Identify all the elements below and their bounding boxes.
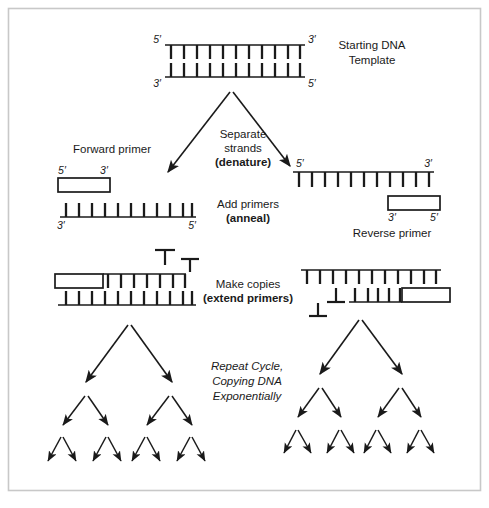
extend-label-line1: Make copies	[216, 278, 281, 290]
anneal-label-line1: Add primers	[217, 198, 279, 210]
template-top-right-end: 3′	[308, 33, 317, 45]
reverse-primer-label: Reverse primer	[353, 227, 432, 239]
denature-label-line1: Separate	[220, 128, 267, 140]
forward-primer-left-end: 5′	[58, 164, 67, 176]
reverse-primer-left-end: 3′	[388, 211, 397, 223]
starting-template-label-line2: Template	[349, 54, 396, 66]
template-bottom-right-end: 5′	[308, 77, 317, 89]
starting-template-label-line1: Starting DNA	[338, 39, 405, 51]
figure-border	[9, 9, 481, 491]
repeat-cycle-line3: Exponentially	[213, 390, 283, 402]
template-top-left-end: 5′	[153, 33, 162, 45]
denatured-left-right-end: 5′	[188, 219, 197, 231]
repeat-cycle-line1: Repeat Cycle,	[211, 360, 283, 372]
pcr-diagram-canvas: 5′ 3′ 3′ 5′ Starting DNA Template Separa…	[0, 0, 489, 508]
reverse-primer-right-end: 5′	[430, 211, 439, 223]
extend-right-primer-box	[402, 288, 450, 302]
repeat-cycle-line2: Copying DNA	[212, 375, 282, 387]
anneal-label-line2: (anneal)	[226, 212, 270, 224]
denatured-left-left-end: 3′	[57, 219, 66, 231]
template-bottom-left-end: 3′	[153, 77, 162, 89]
forward-primer-label: Forward primer	[73, 143, 151, 155]
reverse-primer-box	[388, 196, 440, 210]
denature-label-line2: strands	[224, 142, 262, 154]
forward-primer-right-end: 3′	[100, 164, 109, 176]
pcr-diagram-figure: 5′ 3′ 3′ 5′ Starting DNA Template Separa…	[0, 0, 489, 508]
extend-left-primer-box	[55, 274, 103, 288]
repeat-cycle-label: Repeat Cycle, Copying DNA Exponentially	[211, 360, 283, 402]
denatured-right-right-end: 3′	[424, 157, 433, 169]
denature-label-line3: (denature)	[215, 156, 271, 168]
denatured-right-left-end: 5′	[296, 157, 305, 169]
forward-primer-box	[58, 178, 110, 192]
extend-label-line2: (extend primers)	[203, 292, 293, 304]
